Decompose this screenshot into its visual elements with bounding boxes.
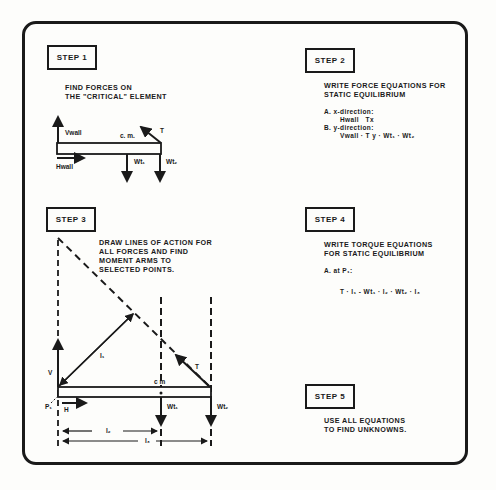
d1-vwall-label: Vwall bbox=[65, 129, 82, 136]
d3-l3-label: l₃ bbox=[145, 437, 150, 444]
step-1-free-body-diagram bbox=[57, 117, 161, 181]
d3-cm-label: c m bbox=[154, 378, 165, 385]
d1-t-label: T bbox=[160, 127, 164, 134]
diagrams-svg bbox=[0, 0, 496, 490]
step-3-lines-of-action-diagram bbox=[51, 238, 211, 446]
d3-wt2-label: Wt₂ bbox=[217, 403, 228, 410]
d3-v-label: V bbox=[48, 369, 52, 376]
d3-p1-label: P₁ bbox=[45, 403, 52, 410]
d1-wt1-label: Wt₁ bbox=[134, 158, 145, 165]
d3-t-label: T bbox=[195, 363, 199, 370]
d3-l2-label: l₂ bbox=[106, 427, 111, 434]
d3-h-label: H bbox=[64, 406, 69, 413]
d3-l1-label: l₁ bbox=[100, 352, 105, 359]
d1-hwall-label: Hwall bbox=[56, 163, 73, 170]
d1-cm-label: c. m. bbox=[120, 132, 135, 139]
d3-wt1-label: Wt₁ bbox=[167, 403, 178, 410]
d1-wt2-label: Wt₂ bbox=[166, 158, 177, 165]
